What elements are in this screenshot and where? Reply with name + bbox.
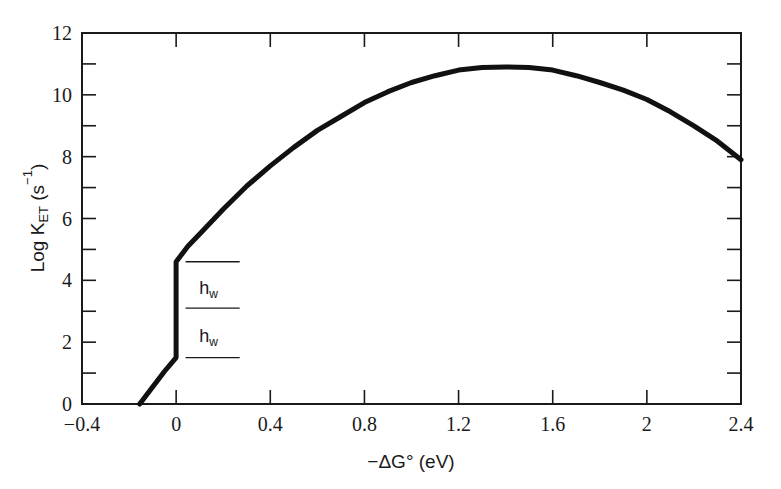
y-axis-label-part: ) xyxy=(27,164,48,170)
data-curve xyxy=(140,67,741,404)
y-axis-label-part: −1 xyxy=(20,170,35,185)
x-tick-label: 2 xyxy=(642,413,652,435)
x-tick-label: 2.4 xyxy=(729,413,754,435)
x-axis-label: −ΔG° (eV) xyxy=(367,451,454,472)
y-tick-label: 8 xyxy=(62,146,72,168)
y-tick-label: 12 xyxy=(52,22,72,44)
x-tick-label: −0.4 xyxy=(64,413,100,435)
y-tick-label: 4 xyxy=(62,269,72,291)
plot-border xyxy=(82,33,741,404)
plot-frame xyxy=(82,33,741,404)
y-tick-label: 10 xyxy=(52,84,72,106)
x-tick-label: 0 xyxy=(171,413,181,435)
y-tick-label: 2 xyxy=(62,331,72,353)
y-tick-label: 0 xyxy=(62,393,72,415)
x-tick-label: 1.2 xyxy=(446,413,471,435)
y-axis-label-part: ET xyxy=(36,206,51,223)
chart: −0.400.40.81.21.622.4024681012 hwhw −ΔG°… xyxy=(0,0,781,489)
hw-label: hw xyxy=(199,326,218,349)
y-axis-label: Log KET (s−1) xyxy=(20,164,51,273)
x-tick-label: 1.6 xyxy=(540,413,565,435)
y-tick-label: 6 xyxy=(62,208,72,230)
y-axis-label-part: (s xyxy=(27,185,48,206)
x-tick-label: 0.4 xyxy=(258,413,283,435)
x-tick-label: 0.8 xyxy=(352,413,377,435)
axis-ticks xyxy=(82,33,741,404)
hw-label: hw xyxy=(199,278,218,301)
y-axis-label-part: Log K xyxy=(27,222,48,272)
hw-annotations: hwhw xyxy=(186,262,240,358)
